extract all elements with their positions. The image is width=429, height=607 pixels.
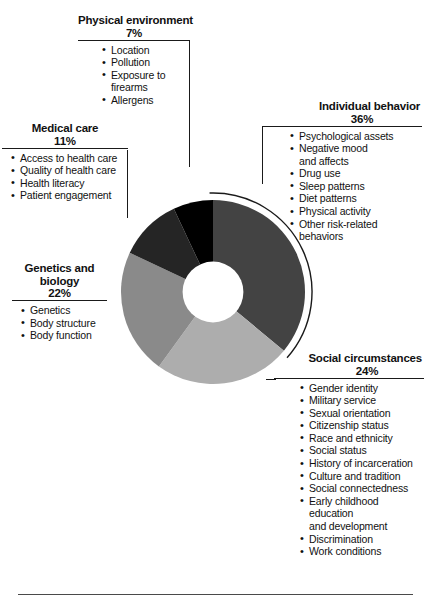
list-item-continuation: and development xyxy=(300,520,424,533)
callout-physical-environment: Physical environment 7% Location Polluti… xyxy=(78,14,190,106)
callout-list-medical-care: Access to health care Quality of health … xyxy=(2,152,128,202)
callout-title-genetics-and-biology-line1: Genetics and xyxy=(12,262,107,275)
callout-rule-genetics-and-biology xyxy=(12,300,107,301)
callout-percent-individual-behavior: 36% xyxy=(262,113,422,126)
list-item: Health literacy xyxy=(11,177,128,190)
callout-title-physical-environment: Physical environment xyxy=(78,14,190,27)
list-item: Culture and tradition xyxy=(300,470,424,483)
leader-line-social-circumstances xyxy=(266,379,276,380)
figure-page: Physical environment 7% Location Polluti… xyxy=(0,0,429,607)
list-item: Genetics xyxy=(21,304,107,317)
list-item: Discrimination xyxy=(300,533,424,546)
list-item: Social connectedness xyxy=(300,482,424,495)
list-item: Work conditions xyxy=(300,545,424,558)
callout-percent-medical-care: 11% xyxy=(2,135,128,148)
list-item: Allergens xyxy=(102,94,190,107)
callout-genetics-and-biology: Genetics and biology 22% Genetics Body s… xyxy=(12,262,107,342)
list-item: Psychological assets xyxy=(290,130,422,143)
list-item: Patient engagement xyxy=(11,189,128,202)
callout-percent-genetics-and-biology: 22% xyxy=(12,287,107,300)
callout-percent-physical-environment: 7% xyxy=(78,27,190,40)
callout-rule-medical-care xyxy=(2,148,128,149)
callout-rule-individual-behavior xyxy=(262,126,422,127)
footer-rule xyxy=(18,594,413,595)
donut-center-hole xyxy=(183,262,244,323)
list-item: Location xyxy=(102,44,190,57)
callout-medical-care: Medical care 11% Access to health care Q… xyxy=(2,122,128,202)
list-item: Body structure xyxy=(21,317,107,330)
callout-title-medical-care: Medical care xyxy=(2,122,128,135)
callout-list-physical-environment: Location Pollution Exposure to firearms … xyxy=(78,44,190,107)
list-item: Pollution xyxy=(102,56,190,69)
donut-chart-svg xyxy=(118,148,418,468)
list-item: Exposure to firearms xyxy=(102,69,190,94)
list-item: Quality of health care xyxy=(11,164,128,177)
list-item: Body function xyxy=(21,329,107,342)
list-item: Access to health care xyxy=(11,152,128,165)
callout-rule-physical-environment xyxy=(78,40,190,41)
donut-chart xyxy=(118,148,322,448)
callout-list-genetics-and-biology: Genetics Body structure Body function xyxy=(12,304,107,342)
callout-title-genetics-and-biology-line2: biology xyxy=(12,275,107,288)
callout-title-individual-behavior: Individual behavior xyxy=(262,100,422,113)
list-item: Early childhood education xyxy=(300,495,424,520)
